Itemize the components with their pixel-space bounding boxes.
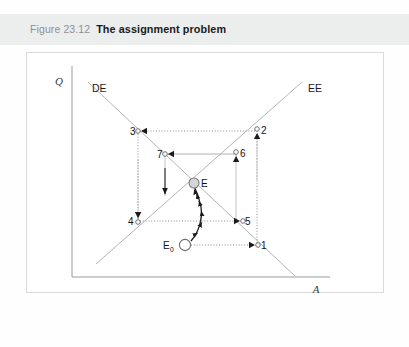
- point-5-label: 5: [245, 216, 251, 227]
- point-7-label: 7: [157, 149, 163, 160]
- trajectory-arrow-2: [201, 222, 202, 224]
- trajectory-arrow-head: [194, 190, 195, 192]
- point-5[interactable]: 5: [234, 216, 251, 227]
- plot-drawing: Q A DE EE: [0, 0, 409, 347]
- trajectory-arrow-5: [197, 194, 198, 196]
- point-4-label: 4: [128, 216, 134, 227]
- point-2-label: 2: [261, 125, 267, 136]
- trajectory-arrow-4: [199, 201, 200, 203]
- equilibrium-point-E[interactable]: E: [189, 178, 208, 189]
- point-3-label: 3: [130, 126, 136, 137]
- trajectory-curve: [191, 186, 201, 241]
- point-6[interactable]: 6: [233, 148, 246, 162]
- adjustment-trajectory: [191, 186, 202, 241]
- point-1-label: 1: [261, 240, 267, 251]
- y-axis-label: Q: [55, 75, 63, 87]
- point-6-label: 6: [240, 148, 246, 159]
- figure-container: Figure 23.12The assignment problem: [0, 0, 409, 347]
- point-2[interactable]: 2: [254, 125, 267, 139]
- initial-point-label: E: [163, 240, 170, 251]
- x-axis-label: A: [312, 283, 320, 295]
- de-curve-label: DE: [92, 82, 107, 94]
- initial-point-E0[interactable]: E 0: [163, 239, 191, 253]
- point-4[interactable]: 4: [128, 212, 141, 227]
- equilibrium-label: E: [201, 178, 208, 189]
- ee-curve-label: EE: [308, 82, 322, 94]
- ee-curve: [96, 82, 302, 264]
- initial-point-label-subscript: 0: [170, 246, 174, 253]
